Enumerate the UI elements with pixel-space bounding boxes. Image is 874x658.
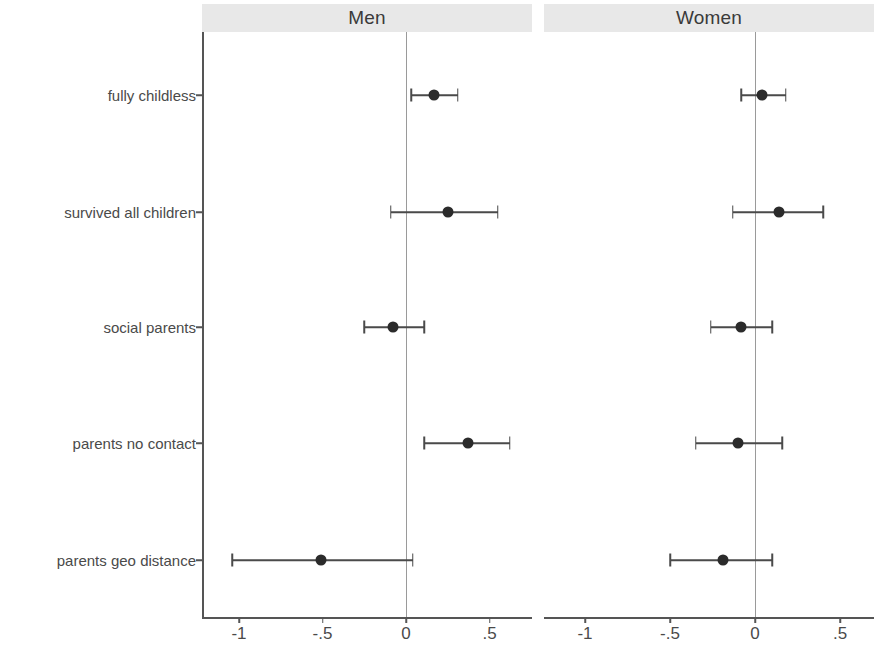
ci-cap-low-women-1 (732, 206, 734, 219)
ci-cap-high-men-4 (412, 554, 414, 567)
y-axis-label-parents-no-contact: parents no contact (73, 435, 196, 452)
y-axis-label-social-parents: social parents (103, 319, 196, 336)
ci-cap-low-men-3 (424, 437, 426, 450)
coefficient-plot: fully childlesssurvived all childrensoci… (0, 0, 874, 658)
ci-cap-low-men-2 (364, 321, 366, 334)
x-axis-ticklabel-women-1: -.5 (660, 624, 680, 644)
ci-cap-low-women-4 (669, 554, 671, 567)
ci-cap-high-men-1 (497, 206, 499, 219)
ci-cap-high-men-2 (424, 321, 426, 334)
x-axis-spine-women (544, 617, 874, 619)
panel-title-men: Men (348, 7, 386, 29)
ci-cap-low-women-2 (710, 321, 712, 334)
ci-cap-low-men-1 (390, 206, 392, 219)
y-axis-spine (202, 32, 204, 617)
ci-cap-high-women-4 (771, 554, 773, 567)
zero-reference-line-men (406, 32, 407, 617)
x-axis-ticklabel-women-0: -1 (577, 624, 592, 644)
ci-cap-high-women-1 (822, 206, 824, 219)
data-point-men-3 (462, 438, 473, 449)
ci-cap-high-men-0 (457, 89, 459, 102)
x-axis-tick-women-2 (754, 617, 756, 623)
ci-cap-high-women-0 (785, 89, 787, 102)
y-axis-label-parents-geo-distance: parents geo distance (57, 552, 196, 569)
data-point-men-1 (442, 207, 453, 218)
data-point-women-0 (756, 90, 767, 101)
x-axis-tick-men-3 (489, 617, 491, 623)
x-axis-ticklabel-men-1: -.5 (313, 624, 333, 644)
x-axis-tick-women-1 (669, 617, 671, 623)
panel-header-women: Women (544, 4, 874, 32)
ci-cap-high-women-2 (771, 321, 773, 334)
ci-cap-low-women-0 (741, 89, 743, 102)
ci-cap-low-men-4 (232, 554, 234, 567)
x-axis-tick-men-1 (322, 617, 324, 623)
data-point-men-0 (429, 90, 440, 101)
data-point-women-3 (733, 438, 744, 449)
x-axis-ticklabel-men-3: .5 (482, 624, 496, 644)
y-axis-label-survived-all-children: survived all children (64, 204, 196, 221)
x-axis-tick-men-0 (238, 617, 240, 623)
x-axis-ticklabel-men-2: 0 (401, 624, 410, 644)
data-point-women-1 (773, 207, 784, 218)
panel-header-men: Men (202, 4, 532, 32)
x-axis-tick-women-3 (839, 617, 841, 623)
data-point-men-4 (315, 555, 326, 566)
data-point-men-2 (387, 322, 398, 333)
x-axis-ticklabel-men-0: -1 (231, 624, 246, 644)
x-axis-tick-men-2 (405, 617, 407, 623)
x-axis-spine-men (202, 617, 532, 619)
panel-title-women: Women (676, 7, 742, 29)
y-axis-category-labels: fully childlesssurvived all childrensoci… (0, 0, 196, 617)
ci-cap-low-women-3 (695, 437, 697, 450)
data-point-women-4 (717, 555, 728, 566)
ci-cap-low-men-0 (410, 89, 412, 102)
data-point-women-2 (736, 322, 747, 333)
x-axis-tick-women-0 (584, 617, 586, 623)
ci-cap-high-women-3 (781, 437, 783, 450)
zero-reference-line-women (755, 32, 756, 617)
y-axis-label-fully-childless: fully childless (108, 87, 196, 104)
x-axis-ticklabel-women-3: .5 (833, 624, 847, 644)
x-axis-ticklabel-women-2: 0 (750, 624, 759, 644)
ci-cap-high-men-3 (509, 437, 511, 450)
